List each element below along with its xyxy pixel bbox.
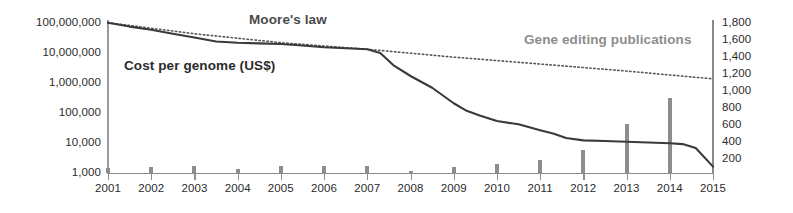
x-axis-tick: [324, 173, 325, 180]
right-axis-tick-label: 600: [722, 118, 792, 130]
x-axis-tick: [454, 173, 455, 180]
x-axis-tick: [238, 173, 239, 180]
x-axis-tick: [367, 173, 368, 180]
right-axis-tick-label: 1,000: [722, 84, 792, 96]
genome-cost-chart: 100,000,000 10,000,000 1,000,000 100,000…: [0, 0, 793, 213]
right-axis-tick-label: 1,800: [722, 16, 792, 28]
x-axis-tick: [713, 173, 714, 180]
right-axis-tick-label: 1,400: [722, 50, 792, 62]
left-axis-tick-label: 10,000: [0, 136, 101, 148]
x-axis-tick: [281, 173, 282, 180]
x-axis-tick: [411, 173, 412, 180]
x-axis-tick-label: 2014: [657, 182, 683, 194]
x-axis-tick: [151, 173, 152, 180]
left-axis-tick-label: 1,000,000: [0, 76, 101, 88]
x-axis-tick: [108, 173, 109, 180]
x-axis-tick: [540, 173, 541, 180]
x-axis-tick: [194, 173, 195, 180]
moore-law-label: Moore's law: [249, 12, 327, 27]
x-axis-tick: [583, 173, 584, 180]
x-axis-tick-label: 2007: [354, 182, 380, 194]
x-axis-tick-label: 2003: [181, 182, 207, 194]
x-axis-tick: [670, 173, 671, 180]
x-axis-tick-label: 2008: [398, 182, 424, 194]
left-axis-tick-label: 100,000,000: [0, 16, 101, 28]
right-axis-tick-label: 1,200: [722, 67, 792, 79]
right-axis-tick-label: 200: [722, 152, 792, 164]
gene-editing-publications-label: Gene editing publications: [524, 32, 692, 47]
x-axis-tick-label: 2012: [570, 182, 596, 194]
x-axis-tick-label: 2004: [225, 182, 251, 194]
cost-per-genome-label: Cost per genome (US$): [124, 58, 275, 73]
x-axis-tick-label: 2009: [441, 182, 467, 194]
x-axis-tick: [627, 173, 628, 180]
right-axis-tick-label: 400: [722, 135, 792, 147]
left-axis-tick-label: 1,000: [0, 166, 101, 178]
x-axis-tick-label: 2015: [700, 182, 726, 194]
x-axis-tick: [497, 173, 498, 180]
left-axis-tick-label: 100,000: [0, 106, 101, 118]
x-axis-tick-label: 2010: [484, 182, 510, 194]
right-axis-tick-label: 1,600: [722, 33, 792, 45]
right-axis-tick-label: 800: [722, 101, 792, 113]
x-axis-tick-label: 2006: [311, 182, 337, 194]
x-axis-tick-label: 2005: [268, 182, 294, 194]
x-axis-tick-label: 2011: [528, 182, 553, 194]
x-axis-tick-label: 2002: [138, 182, 164, 194]
x-axis-tick-label: 2001: [95, 182, 121, 194]
left-axis-tick-label: 10,000,000: [0, 46, 101, 58]
x-axis-tick-label: 2013: [614, 182, 640, 194]
x-axis-tick-labels: 2001200220032004200520062007200820092010…: [0, 182, 793, 202]
